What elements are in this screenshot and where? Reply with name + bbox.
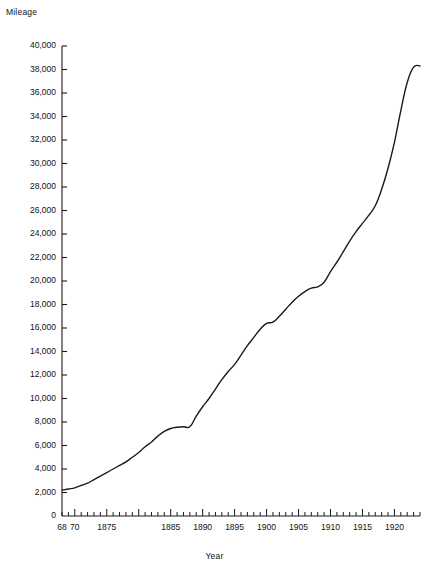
- y-tick-label: 18,000: [10, 299, 56, 309]
- x-tick-label: 1910: [321, 522, 340, 532]
- chart-container: Mileage Year 02,0004,0006,0008,00010,000…: [0, 0, 429, 576]
- y-tick-label: 10,000: [10, 393, 56, 403]
- x-tick-label: 1905: [289, 522, 308, 532]
- y-tick-label: 0: [10, 510, 56, 520]
- x-tick-label: 1895: [225, 522, 244, 532]
- y-tick-label: 36,000: [10, 87, 56, 97]
- x-tick-label: 1920: [385, 522, 404, 532]
- y-tick-label: 14,000: [10, 346, 56, 356]
- y-tick-label: 26,000: [10, 205, 56, 215]
- x-tick-label: 70: [70, 522, 79, 532]
- x-tick-label: 1885: [161, 522, 180, 532]
- y-tick-label: 4,000: [10, 463, 56, 473]
- y-tick-label: 24,000: [10, 228, 56, 238]
- x-tick-label: 68: [57, 522, 66, 532]
- y-tick-label: 16,000: [10, 322, 56, 332]
- y-tick-label: 2,000: [10, 487, 56, 497]
- y-tick-label: 8,000: [10, 416, 56, 426]
- line-plot: [0, 0, 429, 576]
- y-tick-label: 34,000: [10, 111, 56, 121]
- y-tick-label: 28,000: [10, 181, 56, 191]
- y-tick-label: 12,000: [10, 369, 56, 379]
- x-tick-label: 1900: [257, 522, 276, 532]
- y-tick-label: 38,000: [10, 64, 56, 74]
- x-axis-ticks: [62, 509, 420, 516]
- y-tick-label: 32,000: [10, 134, 56, 144]
- y-tick-label: 20,000: [10, 275, 56, 285]
- mileage-series-line: [62, 65, 420, 490]
- x-tick-label: 1915: [353, 522, 372, 532]
- x-tick-label: 1875: [97, 522, 116, 532]
- y-tick-label: 22,000: [10, 252, 56, 262]
- axis-lines: [62, 46, 420, 516]
- y-tick-label: 6,000: [10, 440, 56, 450]
- x-tick-label: 1890: [193, 522, 212, 532]
- y-axis-ticks: [62, 46, 67, 493]
- y-tick-label: 30,000: [10, 158, 56, 168]
- y-tick-label: 40,000: [10, 40, 56, 50]
